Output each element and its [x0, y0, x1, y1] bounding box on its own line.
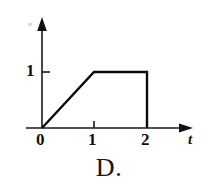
axis-ticks-group — [42, 72, 147, 128]
up-arrow-icon — [37, 17, 47, 31]
y-tick-label-1: 1 — [26, 62, 35, 79]
x-tick-label-1: 1 — [88, 131, 97, 148]
data-series-trapezoidal-pulse — [42, 72, 147, 128]
figure-container: 1 0 1 2 t D. — [0, 0, 218, 189]
x-tick-label-2: 2 — [141, 131, 150, 148]
pulse-curve-path — [42, 72, 147, 128]
x-tick-label-0: 0 — [36, 131, 45, 148]
option-label: D. — [0, 155, 218, 181]
x-axis-group — [26, 123, 193, 132]
x-axis-name: t — [188, 132, 192, 147]
